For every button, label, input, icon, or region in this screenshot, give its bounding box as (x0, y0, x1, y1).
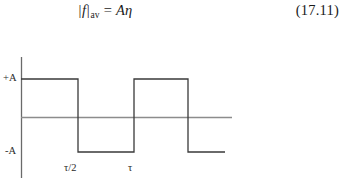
eta-symbol: η (125, 2, 132, 18)
equals-sign: = (100, 2, 116, 18)
equation-number: (17.11) (296, 2, 339, 19)
square-wave-plot (0, 28, 349, 181)
y-tick-label-plus-a: +A (3, 72, 17, 83)
square-wave-figure: +A -A τ/2 τ (0, 28, 349, 181)
y-tick-label-minus-a: -A (5, 145, 16, 156)
figure-page: |f|av=Aη (17.11) +A -A τ/2 τ (0, 0, 349, 181)
equation-expression: |f|av=Aη (78, 2, 132, 20)
amplitude-symbol-A: A (116, 2, 125, 18)
x-tick-label-tau: τ (128, 162, 132, 173)
square-wave-trace (21, 79, 225, 152)
x-tick-label-half-tau: τ/2 (64, 162, 76, 173)
subscript-av: av (90, 10, 99, 20)
equation-row: |f|av=Aη (17.11) (0, 0, 349, 28)
